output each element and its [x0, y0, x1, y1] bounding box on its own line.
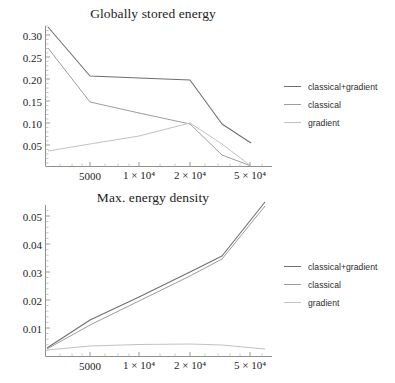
series-line-classical-top — [48, 48, 251, 166]
legend-label: classical+gradient — [308, 82, 377, 92]
series-line-gradient-top — [48, 123, 251, 166]
legend-item-gradient-top: gradient — [284, 115, 377, 130]
legend-line-icon — [284, 266, 301, 267]
legend-item-classical-plus-gradient-bottom: classical+gradient — [284, 259, 377, 274]
legend-top: classical+gradient classical gradient — [284, 79, 377, 133]
legend-item-classical-top: classical — [284, 97, 377, 112]
x-ticks-bottom — [90, 352, 250, 357]
series-line-classical-bottom — [47, 206, 265, 349]
legend-line-icon — [284, 302, 301, 303]
series-line-classical-plus-gradient-bottom — [47, 202, 265, 348]
legend-label: gradient — [308, 118, 339, 128]
x-ticks-top — [90, 162, 250, 167]
chart-panel-max-energy-density: Max. energy density 0.05 0.04 0.03 0.02 … — [0, 185, 395, 383]
legend-bottom: classical+gradient classical gradient — [284, 259, 377, 313]
series-line-classical-plus-gradient-top — [48, 27, 251, 143]
legend-item-gradient-bottom: gradient — [284, 295, 377, 310]
legend-item-classical-bottom: classical — [284, 277, 377, 292]
legend-label: gradient — [308, 298, 339, 308]
chart-panel-globally-stored-energy: Globally stored energy 0.30 0.25 0.20 0.… — [0, 0, 395, 192]
legend-line-icon — [284, 122, 301, 123]
y-ticks-top — [46, 35, 51, 145]
figure-container: Globally stored energy 0.30 0.25 0.20 0.… — [0, 0, 395, 383]
legend-line-icon — [284, 284, 301, 285]
legend-label: classical — [308, 100, 341, 110]
legend-label: classical — [308, 280, 341, 290]
legend-line-icon — [284, 104, 301, 105]
legend-item-classical-plus-gradient-top: classical+gradient — [284, 79, 377, 94]
series-line-gradient-bottom — [47, 344, 265, 350]
legend-line-icon — [284, 86, 301, 87]
legend-label: classical+gradient — [308, 262, 377, 272]
